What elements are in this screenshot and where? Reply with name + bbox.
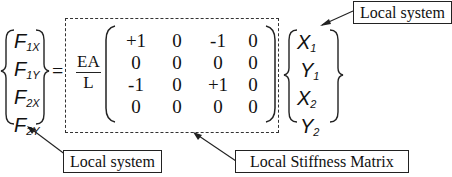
matrix-cell: 0 [116,52,156,74]
matrix-row: 0 0 0 0 [116,96,268,118]
matrix-row: +1 0 -1 0 [116,30,268,52]
matrix-cell: 0 [238,30,268,52]
matrix-cell: -1 [116,74,156,96]
force-entry: F2Y [14,114,40,142]
matrix-row: -1 0 +1 0 [116,74,268,96]
matrix-cell: 0 [156,52,198,74]
stiffness-matrix: +1 0 -1 0 0 0 0 0 -1 0 +1 0 0 0 0 0 [116,30,268,118]
fraction-denominator: L [76,73,101,93]
displacement-entry: Y1 [297,59,331,87]
matrix-cell: 0 [156,74,198,96]
displacement-entry: X1 [297,31,331,59]
force-vector: F1X F1Y F2X F2Y [14,30,40,142]
matrix-cell: +1 [198,74,238,96]
matrix-cell: +1 [116,30,156,52]
matrix-cell: 0 [156,96,198,118]
callout-local-system-top: Local system [353,1,452,24]
equals-sign: = [52,60,63,83]
callout-local-stiffness-matrix: Local Stiffness Matrix [235,150,409,173]
matrix-cell: 0 [238,96,268,118]
callout-local-system-bottom: Local system [63,150,162,173]
matrix-cell: -1 [198,30,238,52]
force-entry: F1X [14,30,40,58]
matrix-cell: 0 [238,52,268,74]
matrix-cell: 0 [156,30,198,52]
matrix-cell: 0 [198,96,238,118]
matrix-cell: 0 [238,74,268,96]
fraction-numerator: EA [76,52,101,73]
matrix-cell: 0 [198,52,238,74]
matrix-row: 0 0 0 0 [116,52,268,74]
force-entry: F1Y [14,58,40,86]
displacement-entry: Y2 [297,115,331,143]
force-entry: F2X [14,86,40,114]
coefficient-fraction: EA L [76,52,101,93]
displacement-vector: X1 Y1 X2 Y2 [297,31,331,143]
matrix-cell: 0 [116,96,156,118]
displacement-entry: X2 [297,87,331,115]
